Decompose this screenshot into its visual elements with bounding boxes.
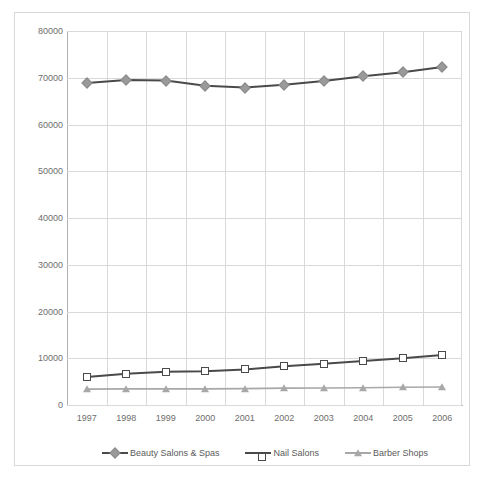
triangle-marker-icon xyxy=(354,449,362,456)
x-tick-label: 2001 xyxy=(235,413,255,424)
gridline-horizontal xyxy=(67,405,462,406)
legend-label: Beauty Salons & Spas xyxy=(130,447,220,459)
legend-item[interactable]: Nail Salons xyxy=(245,447,319,459)
plot-area xyxy=(67,31,462,405)
open-square-marker-icon xyxy=(258,453,266,461)
y-tick-label: 30000 xyxy=(38,260,63,270)
x-tick-label: 2006 xyxy=(432,413,452,424)
x-tick-label: 1997 xyxy=(77,413,97,424)
y-tick-label: 80000 xyxy=(38,26,63,36)
triangle-marker-icon xyxy=(438,383,446,390)
y-tick-label: 20000 xyxy=(38,307,63,317)
chart-legend: Beauty Salons & SpasNail SalonsBarber Sh… xyxy=(67,443,463,463)
triangle-marker-icon xyxy=(280,384,288,391)
legend-item[interactable]: Beauty Salons & Spas xyxy=(102,447,220,459)
open-square-marker-icon xyxy=(162,368,170,376)
legend-label: Nail Salons xyxy=(273,447,319,459)
series-line xyxy=(87,355,443,377)
y-tick-label: 0 xyxy=(58,400,63,410)
triangle-marker-icon xyxy=(320,384,328,391)
x-tick-label: 2000 xyxy=(195,413,215,424)
triangle-marker-icon xyxy=(83,385,91,392)
triangle-marker-icon xyxy=(162,385,170,392)
x-tick-label: 1999 xyxy=(156,413,176,424)
y-tick-label: 10000 xyxy=(38,353,63,363)
open-square-marker-icon xyxy=(201,367,209,375)
x-tick-label: 2002 xyxy=(274,413,294,424)
series-line xyxy=(87,67,443,88)
x-axis-tick-labels: 1997199819992000200120022003200420052006 xyxy=(67,413,463,427)
triangle-marker-icon xyxy=(359,384,367,391)
legend-swatch xyxy=(245,447,271,459)
y-tick-label: 70000 xyxy=(38,73,63,83)
x-tick-label: 2003 xyxy=(314,413,334,424)
open-square-marker-icon xyxy=(83,373,91,381)
open-square-marker-icon xyxy=(280,362,288,370)
y-axis-tick-labels: 0100002000030000400005000060000700008000… xyxy=(18,0,63,483)
diamond-marker-icon xyxy=(109,447,120,458)
x-tick-label: 2005 xyxy=(393,413,413,424)
x-tick-label: 2004 xyxy=(353,413,373,424)
triangle-marker-icon xyxy=(122,385,130,392)
open-square-marker-icon xyxy=(359,357,367,365)
series-lines xyxy=(67,31,462,405)
open-square-marker-icon xyxy=(320,360,328,368)
triangle-marker-icon xyxy=(399,383,407,390)
legend-label: Barber Shops xyxy=(373,447,428,459)
open-square-marker-icon xyxy=(122,370,130,378)
line-chart-figure: 0100002000030000400005000060000700008000… xyxy=(0,0,492,483)
open-square-marker-icon xyxy=(399,354,407,362)
open-square-marker-icon xyxy=(241,365,249,373)
y-tick-label: 40000 xyxy=(38,213,63,223)
triangle-marker-icon xyxy=(201,385,209,392)
triangle-marker-icon xyxy=(241,385,249,392)
legend-item[interactable]: Barber Shops xyxy=(345,447,428,459)
series-line xyxy=(87,387,443,389)
legend-swatch xyxy=(102,447,128,459)
y-tick-label: 50000 xyxy=(38,166,63,176)
x-tick-label: 1998 xyxy=(116,413,136,424)
legend-swatch xyxy=(345,447,371,459)
open-square-marker-icon xyxy=(438,351,446,359)
y-tick-label: 60000 xyxy=(38,120,63,130)
